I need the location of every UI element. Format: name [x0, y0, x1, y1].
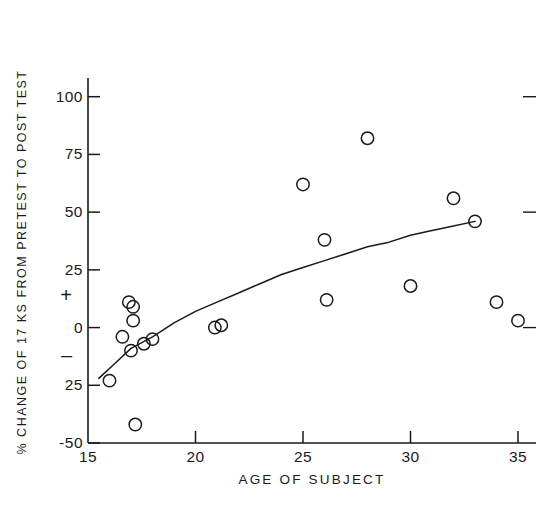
- y-tick-label: 25: [65, 261, 83, 278]
- x-tick-label: 20: [186, 448, 204, 465]
- y-tick-label: 25: [65, 376, 83, 393]
- figure-background: [0, 0, 560, 512]
- y-tick-label: 75: [65, 145, 83, 162]
- plot-canvas: 100755025025-50 +– 1520253035 AGE OF SUB…: [0, 0, 560, 512]
- scatter-plot-figure: 100755025025-50 +– 1520253035 AGE OF SUB…: [0, 0, 560, 512]
- y-axis-title: % CHANGE OF 17 KS FROM PRETEST TO POST T…: [15, 70, 29, 455]
- y-tick-label: 50: [65, 203, 83, 220]
- x-tick-label: 35: [509, 448, 527, 465]
- x-tick-label: 30: [401, 448, 419, 465]
- y-sign-marker: –: [61, 344, 73, 366]
- y-sign-marker: +: [60, 284, 72, 306]
- y-tick-label: 0: [74, 319, 83, 336]
- x-axis-title: AGE OF SUBJECT: [238, 472, 385, 487]
- y-tick-label: 100: [56, 88, 83, 105]
- x-tick-label: 25: [294, 448, 312, 465]
- x-tick-label: 15: [79, 448, 97, 465]
